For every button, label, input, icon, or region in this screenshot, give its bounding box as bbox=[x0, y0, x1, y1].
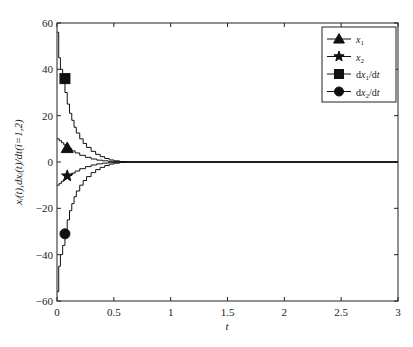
x-tick-label: 1 bbox=[168, 306, 174, 318]
y-tick-label: −20 bbox=[36, 202, 54, 214]
y-tick-label: −40 bbox=[36, 249, 54, 261]
x-tick-label: 3 bbox=[395, 306, 401, 318]
y-tick-label: 20 bbox=[42, 110, 54, 122]
triangle-marker-icon bbox=[61, 142, 73, 153]
chart: 00.511.522.53−60−40−200204060 x1x2dx1/dt… bbox=[0, 0, 413, 347]
legend: x1x2dx1/dtdx2/dt bbox=[322, 27, 396, 102]
x-tick-label: 0.5 bbox=[107, 306, 121, 318]
square-icon bbox=[335, 70, 344, 79]
series-line-dx2dt bbox=[57, 162, 398, 292]
x-axis-label: t bbox=[225, 320, 229, 332]
x-tick-label: 2.5 bbox=[334, 306, 348, 318]
y-axis-label: xᵢ(t),dxᵢ(t)/dt(i=1,2) bbox=[12, 119, 25, 206]
x-tick-label: 0 bbox=[54, 306, 60, 318]
x-tick-label: 1.5 bbox=[221, 306, 235, 318]
y-tick-label: −60 bbox=[36, 295, 54, 307]
y-tick-label: 40 bbox=[42, 63, 54, 75]
markers-layer bbox=[60, 74, 73, 239]
y-tick-label: 0 bbox=[48, 156, 54, 168]
circle-icon bbox=[335, 87, 344, 96]
y-tick-label: 60 bbox=[42, 17, 54, 29]
x-tick-label: 2 bbox=[282, 306, 288, 318]
circle-marker-icon bbox=[60, 229, 70, 239]
square-marker-icon bbox=[60, 74, 70, 84]
star-marker-icon bbox=[62, 170, 73, 181]
